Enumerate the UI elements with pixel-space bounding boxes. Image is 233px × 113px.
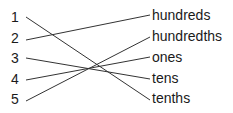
left-item-2: 2 bbox=[11, 31, 19, 45]
right-item-tenths: tenths bbox=[152, 91, 190, 105]
right-item-hundredths: hundredths bbox=[152, 29, 222, 43]
left-item-3: 3 bbox=[11, 51, 19, 65]
line-2-hundreds bbox=[26, 15, 150, 40]
right-item-tens: tens bbox=[152, 71, 178, 85]
right-item-hundreds: hundreds bbox=[152, 8, 210, 22]
line-1-tenths bbox=[26, 17, 150, 100]
line-5-hundredths bbox=[26, 37, 150, 101]
right-item-ones: ones bbox=[152, 50, 182, 64]
left-item-4: 4 bbox=[11, 72, 19, 86]
left-item-1: 1 bbox=[11, 10, 19, 24]
left-item-5: 5 bbox=[11, 92, 19, 106]
